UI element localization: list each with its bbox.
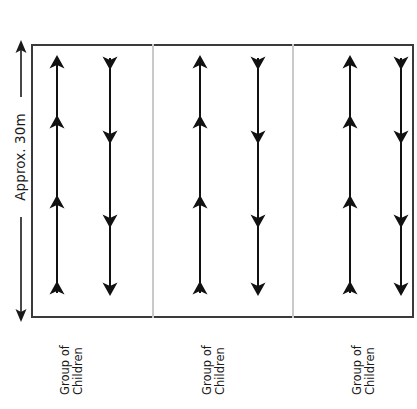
group-3-down-arrow-column [392,53,410,296]
group-3-up-arrow-column [341,55,359,295]
lane-divider-2 [292,44,294,318]
group-label-2-line1: Group of [201,345,214,395]
group-label-3-line2: Children [364,345,377,395]
arrow-up-line-icon [191,55,209,295]
group-label-1-line1: Group of [59,345,72,395]
arrow-down-line-icon [101,53,119,296]
dimension-label: Approx. 30m [11,97,29,217]
group-1-down-arrow-column [101,53,119,296]
arrow-down-line-icon [249,53,267,296]
group-2-down-arrow-column [249,53,267,296]
arrow-down-line-icon [392,53,410,296]
group-2-up-arrow-column [191,55,209,295]
group-label-2-line2: Children [214,345,227,395]
group-1-up-arrow-column [48,55,66,295]
lane-divider-1 [152,44,154,318]
group-label-2: Group of Children [201,345,226,395]
group-label-3: Group of Children [351,345,376,395]
diagram-canvas: Approx. 30m Group of Children [0,0,417,409]
group-label-1: Group of Children [59,345,84,395]
arrow-up-line-icon [48,55,66,295]
arrow-up-line-icon [341,55,359,295]
group-label-3-line1: Group of [351,345,364,395]
group-label-1-line2: Children [72,345,85,395]
